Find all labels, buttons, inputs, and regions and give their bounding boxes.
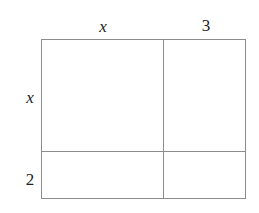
top-label-x: x: [99, 18, 107, 35]
cell-x-by-3: [164, 40, 245, 151]
cell-x-by-x: [42, 40, 163, 151]
top-label-3: 3: [202, 17, 211, 34]
area-model-diagram: x 3 x 2: [0, 0, 259, 213]
side-label-2: 2: [26, 171, 35, 188]
cell-2-by-3: [164, 152, 245, 198]
cell-2-by-x: [42, 152, 163, 198]
side-label-x: x: [26, 89, 34, 106]
